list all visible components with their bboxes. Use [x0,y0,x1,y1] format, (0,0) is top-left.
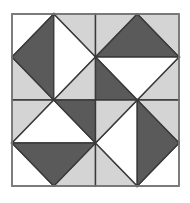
quilt-block-figure [0,0,190,203]
quilt-block-canvas [0,0,190,203]
